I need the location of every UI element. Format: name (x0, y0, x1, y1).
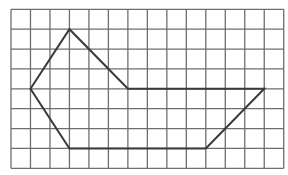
grid-diagram (0, 0, 288, 175)
